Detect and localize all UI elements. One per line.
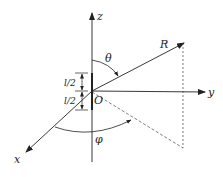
phi-arc: [55, 120, 131, 132]
x-axis-label: x: [14, 153, 21, 166]
radius-vector: [92, 43, 184, 91]
projection-horizontal: [92, 92, 183, 148]
y-axis: [92, 91, 205, 92]
theta-label: θ: [105, 52, 112, 65]
half-length-bottom-label: l/2: [64, 96, 76, 106]
half-length-top-label: l/2: [64, 78, 76, 88]
z-axis-label: z: [96, 10, 103, 23]
origin-label: O: [94, 94, 103, 107]
phi-label: φ: [95, 133, 103, 146]
y-axis-label: y: [207, 86, 215, 99]
spherical-coordinate-diagram: z y x R O θ φ l/2 l/2: [0, 0, 223, 177]
radius-label: R: [159, 38, 168, 51]
